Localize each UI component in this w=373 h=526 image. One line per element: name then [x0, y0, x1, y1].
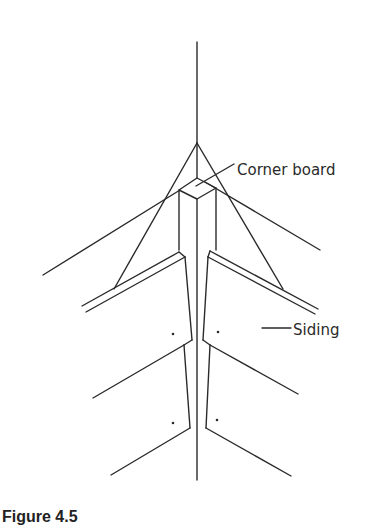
figure-caption: Figure 4.5	[2, 508, 78, 526]
siding-label: Siding	[293, 321, 339, 339]
nail-dot	[172, 422, 175, 425]
nail-dot	[217, 331, 220, 334]
corner-board-top	[179, 178, 216, 199]
corner-board-leader	[196, 164, 234, 186]
upper-line-right	[205, 182, 320, 250]
nail-dot	[172, 333, 175, 336]
perspective-line-left	[114, 143, 197, 289]
nail-dot	[216, 419, 219, 422]
corner-board-label: Corner board	[237, 161, 336, 179]
